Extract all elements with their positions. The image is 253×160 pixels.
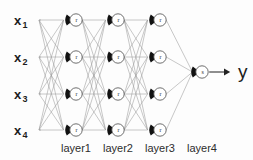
input-label-base: x [14,123,22,138]
neuron-shape [65,124,82,136]
nodes-group: rrrrrrrrrrrrs [65,14,208,136]
layer-label-1: layer1 [61,142,91,154]
neuron-activation-letter: r [118,54,120,60]
neuron-activation-letter: r [76,54,78,60]
neuron-shape [149,51,166,63]
neuron-activation-letter: r [160,91,162,97]
neuron-activation-letter: r [160,127,162,133]
input-label-x1: x1 [14,13,28,31]
neuron-layer4-node1[interactable]: s [191,66,208,78]
neuron-layer1-node1[interactable]: r [65,14,82,26]
neuron-shape [65,88,82,100]
neuron-activation-letter: r [76,17,78,23]
edge-layer3node3-output [166,72,192,94]
layer-label-2: layer2 [103,142,133,154]
layer-label-4: layer4 [187,142,217,154]
neuron-layer2-node1[interactable]: r [107,14,124,26]
neuron-activation-letter: r [118,17,120,23]
edge-layer3node4-output [166,72,192,130]
neuron-activation-letter: r [118,127,120,133]
neuron-shape [107,14,124,26]
neuron-activation-letter: r [160,17,162,23]
neuron-shape [107,124,124,136]
output-arrow-head [224,69,230,76]
network-svg: rrrrrrrrrrrrs x1x2x3x4ylayer1layer2layer… [0,0,253,160]
input-label-x4: x4 [14,123,28,141]
neural-network-diagram: rrrrrrrrrrrrs x1x2x3x4ylayer1layer2layer… [0,0,253,160]
input-label-x3: x3 [14,87,28,105]
edges-group [39,20,193,130]
neuron-activation-letter: r [76,91,78,97]
neuron-shape [65,14,82,26]
neuron-shape [107,88,124,100]
neuron-layer2-node3[interactable]: r [107,88,124,100]
input-label-base: x [14,50,22,65]
neuron-layer3-node1[interactable]: r [149,14,166,26]
neuron-activation-letter: r [160,54,162,60]
input-label-subscript: 4 [23,130,28,140]
neuron-shape [65,51,82,63]
neuron-shape [107,51,124,63]
neuron-layer2-node2[interactable]: r [107,51,124,63]
input-label-x2: x2 [14,50,28,68]
input-label-base: x [14,13,22,28]
neuron-shape [149,88,166,100]
neuron-shape [149,14,166,26]
neuron-layer3-node4[interactable]: r [149,124,166,136]
neuron-layer2-node4[interactable]: r [107,124,124,136]
neuron-shape [149,124,166,136]
layer-label-3: layer3 [145,142,175,154]
neuron-activation-letter: r [76,127,78,133]
output-label-y: y [238,61,248,82]
input-label-base: x [14,87,22,102]
neuron-layer3-node3[interactable]: r [149,88,166,100]
input-label-subscript: 3 [23,94,28,104]
neuron-layer1-node4[interactable]: r [65,124,82,136]
neuron-shape [191,66,208,78]
neuron-activation-letter: r [118,91,120,97]
input-label-subscript: 1 [23,20,28,30]
input-label-subscript: 2 [23,57,28,67]
neuron-layer1-node2[interactable]: r [65,51,82,63]
neuron-layer3-node2[interactable]: r [149,51,166,63]
neuron-layer1-node3[interactable]: r [65,88,82,100]
